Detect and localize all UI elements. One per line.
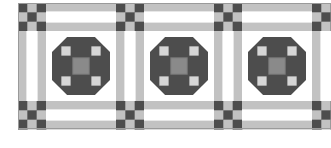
quilt-pattern-canvas <box>0 0 331 148</box>
quilt-figure: Three-Block Quilt Sashing Pattern Repeat… <box>0 0 331 148</box>
